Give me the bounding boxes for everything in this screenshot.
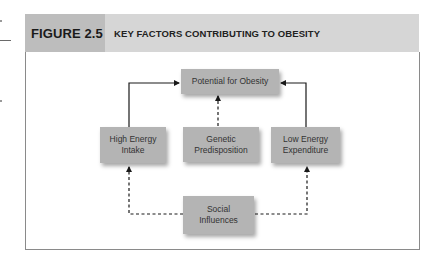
node-high-energy-intake: High Energy Intake (100, 127, 166, 163)
node-label-line1: Genetic (194, 134, 247, 145)
arrow-social-to-high-energy (129, 167, 183, 214)
node-label-line1: Social (199, 204, 238, 215)
node-genetic-predisposition: Genetic Predisposition (183, 127, 259, 162)
node-label-line1: High Energy (110, 134, 157, 145)
node-label-line1: Low Energy (283, 134, 328, 145)
node-label-line2: Intake (110, 145, 157, 156)
node-label-line2: Influences (199, 215, 238, 226)
node-label-line2: Predisposition (194, 145, 247, 156)
node-label: Potential for Obesity (192, 76, 269, 87)
node-label-line2: Expenditure (283, 145, 328, 156)
node-social-influences: Social Influences (183, 196, 254, 234)
node-potential-for-obesity: Potential for Obesity (181, 69, 279, 94)
arrow-social-to-low-energy (255, 167, 307, 214)
node-low-energy-expenditure: Low Energy Expenditure (271, 127, 340, 163)
arrow-high-energy-to-potential (129, 83, 179, 127)
arrow-low-energy-to-potential (281, 83, 306, 127)
